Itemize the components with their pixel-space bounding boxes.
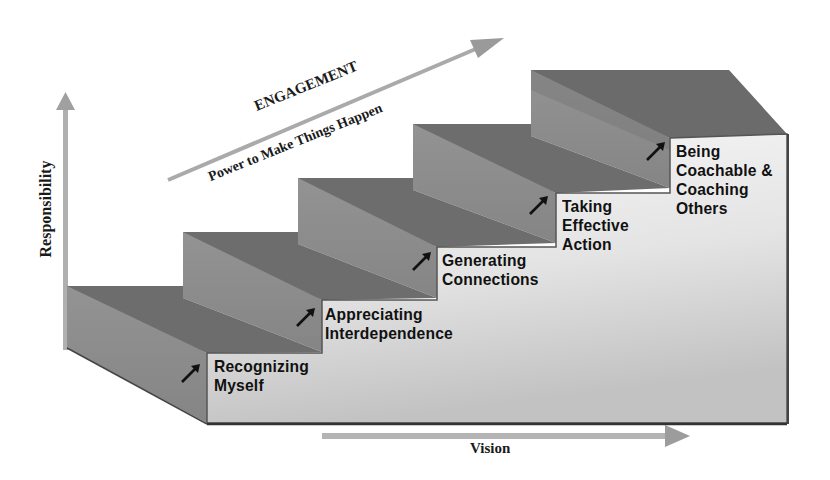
arrow-up-right-icon [180,362,202,384]
step-2-line-1: Appreciating [325,305,453,324]
step-1-label: Recognizing Myself [214,357,309,395]
staircase-diagram: Responsibility ENGAGEMENT Power to Make … [0,0,830,480]
step-1-line-1: Recognizing [214,357,309,376]
vision-axis-label: Vision [470,440,510,457]
step-3-line-1: Generating [442,251,539,270]
step-2-label: Appreciating Interdependence [325,305,453,343]
step-5-line-4: Others [676,199,773,218]
step-5-line-2: Coachable & [676,161,773,180]
step-3-line-2: Connections [442,270,539,289]
step-5-line-3: Coaching [676,180,773,199]
responsibility-axis-label: Responsibility [37,149,55,269]
step-4-line-1: Taking [562,197,629,216]
step-5-line-1: Being [676,142,773,161]
step-4-label: Taking Effective Action [562,197,629,254]
step-4-line-3: Action [562,235,629,254]
arrow-up-right-icon [411,250,433,272]
step-4-line-2: Effective [562,216,629,235]
step-3-label: Generating Connections [442,251,539,289]
arrow-up-right-icon [528,194,550,216]
step-1-line-2: Myself [214,376,309,395]
step-5-label: Being Coachable & Coaching Others [676,142,773,218]
step-2-line-2: Interdependence [325,324,453,343]
arrow-up-right-icon [295,306,317,328]
staircase-graphic [0,0,830,480]
arrow-up-right-icon [645,140,667,162]
staircase-body [67,70,788,424]
